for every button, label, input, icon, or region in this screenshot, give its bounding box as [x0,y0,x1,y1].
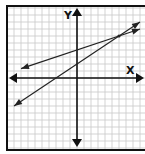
x-axis-label: X [126,64,135,77]
y-axis-label: Y [63,9,73,22]
intersection-point [117,34,120,37]
x-axis-left-arrow [9,73,17,83]
line-1 [21,29,140,69]
y-axis-down-arrow [72,139,82,147]
coordinate-graph: X Y [0,0,145,154]
y-axis-up-arrow [72,8,82,16]
